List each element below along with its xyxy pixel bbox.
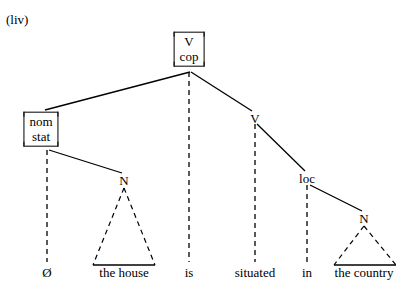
terminal-is: is: [185, 266, 194, 279]
triangle-right-side-right: [364, 226, 396, 265]
node-root-matrix: V cop: [174, 33, 205, 66]
edge-loc-to-n-right: [310, 185, 362, 211]
node-label-n-right: N: [359, 212, 368, 225]
edge-subject-to-n-left: [49, 150, 122, 173]
node-subject-matrix: nom stat: [23, 113, 58, 146]
terminal-zero: Ø: [42, 266, 51, 279]
triangle-left-side-right: [124, 188, 155, 265]
triangle-left-side-left: [93, 188, 124, 265]
edge-root-to-subject: [45, 72, 190, 110]
terminal-in: in: [302, 266, 312, 279]
edge-root-to-v: [191, 72, 252, 111]
node-root-matrix-line-1: V: [184, 34, 193, 49]
example-number: (liv): [6, 12, 28, 28]
node-root-matrix-line-2: cop: [180, 49, 199, 64]
node-label-v: V: [250, 112, 259, 125]
node-subject-matrix-line-2: stat: [32, 129, 50, 144]
triangle-right-side-left: [334, 226, 364, 265]
terminal-situated: situated: [235, 266, 275, 279]
terminal-the-house: the house: [99, 266, 148, 279]
node-subject-matrix-line-1: nom: [29, 114, 52, 129]
edge-v-to-loc: [257, 124, 305, 171]
node-label-loc: loc: [299, 172, 315, 185]
syntax-tree-figure: (liv) V cop nom stat V loc N N Ø the hou…: [0, 0, 406, 298]
terminal-the-country: the country: [335, 266, 394, 279]
node-label-n-left: N: [119, 174, 128, 187]
